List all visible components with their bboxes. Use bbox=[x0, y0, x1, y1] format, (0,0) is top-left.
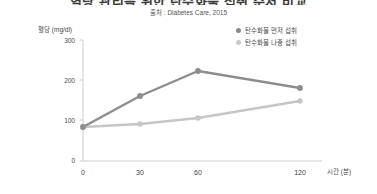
series-line-carb-last bbox=[83, 101, 300, 127]
series-point-carb-first-30 bbox=[137, 93, 143, 99]
chart-plot-area bbox=[0, 0, 377, 194]
series-point-carb-last-60 bbox=[195, 115, 200, 120]
series-point-carb-first-0 bbox=[80, 124, 86, 130]
series-point-carb-last-120 bbox=[297, 98, 302, 103]
series-point-carb-last-30 bbox=[137, 121, 142, 126]
series-point-carb-first-60 bbox=[195, 68, 201, 74]
chart-figure: 혈당 관리를 위한 탄수화물 섭취 순서 비교 출처 : Diabetes Ca… bbox=[0, 0, 377, 194]
series-point-carb-first-120 bbox=[297, 85, 303, 91]
